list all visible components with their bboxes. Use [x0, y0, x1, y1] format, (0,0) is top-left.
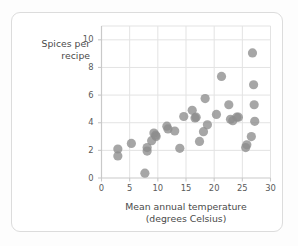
data-point	[192, 113, 201, 122]
x-tick-label: 5	[120, 183, 140, 193]
y-tick-label: 0	[80, 173, 94, 183]
data-point	[175, 144, 184, 153]
chart-page: 051015202530 0246810 Spices per recipe M…	[0, 0, 298, 246]
x-tick-label: 0	[92, 183, 112, 193]
gridlines	[102, 26, 271, 178]
x-tick-label: 25	[232, 183, 252, 193]
data-point	[242, 140, 251, 149]
x-tick-label: 10	[148, 183, 168, 193]
data-point	[212, 110, 221, 119]
data-point	[143, 146, 152, 155]
data-point	[170, 126, 179, 135]
data-point	[250, 100, 259, 109]
data-point	[201, 94, 210, 103]
x-tick-label: 30	[261, 183, 281, 193]
y-axis-label: Spices per recipe	[14, 38, 90, 61]
x-tick-label: 15	[176, 183, 196, 193]
axis-lines	[98, 26, 271, 182]
y-tick-label: 6	[80, 90, 94, 100]
data-point	[195, 137, 204, 146]
data-point	[127, 139, 136, 148]
data-point	[217, 72, 226, 81]
data-point	[248, 48, 257, 57]
data-point	[140, 169, 149, 178]
data-point	[247, 132, 256, 141]
data-point	[250, 117, 259, 126]
data-point	[113, 151, 122, 160]
y-tick-label: 4	[80, 117, 94, 127]
data-point	[249, 80, 258, 89]
y-tick-label: 2	[80, 145, 94, 155]
x-tick-label: 20	[204, 183, 224, 193]
y-tick-label: 8	[80, 62, 94, 72]
data-point	[224, 100, 233, 109]
data-point	[179, 112, 188, 121]
data-point	[234, 113, 243, 122]
data-point	[152, 132, 161, 141]
x-axis-label: Mean annual temperature (degrees Celsius…	[96, 201, 276, 224]
data-point	[203, 120, 212, 129]
